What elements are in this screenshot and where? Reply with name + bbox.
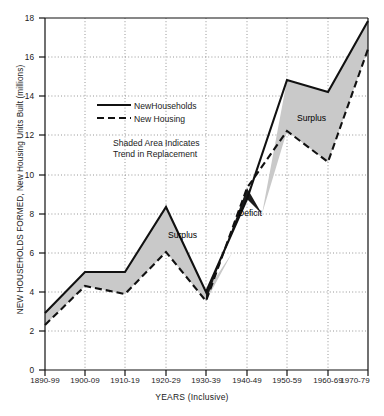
chart-legend: NewHouseholds New Housing <box>97 101 197 124</box>
surplus-band <box>45 21 368 325</box>
chart-container: NEW HOUSEHOLDS FORMED, New Housing Units… <box>0 0 384 416</box>
x-axis-ticks <box>45 370 368 376</box>
shaded-area-note: Shaded Area Indicates Trend in Replaceme… <box>113 138 199 159</box>
legend-label-new-housing: New Housing <box>134 114 185 124</box>
series-line-new-households <box>45 21 368 313</box>
axis-lines <box>45 18 368 370</box>
shaded-area-note-line2: Trend in Replacement <box>113 149 198 159</box>
region-label-surplus-1960s: Surplus <box>297 113 326 123</box>
plot-area: NewHouseholds New Housing Shaded Area In… <box>0 0 384 416</box>
grid-lines <box>45 18 368 370</box>
region-label-surplus-1920s: Surplus <box>168 230 197 240</box>
surplus-area-left <box>45 207 232 325</box>
region-label-deficit-1940s: Deficit <box>238 208 262 218</box>
y-axis-ticks <box>39 18 45 370</box>
legend-label-new-households: NewHouseholds <box>134 101 197 111</box>
shaded-area-note-line1: Shaded Area Indicates <box>113 138 199 148</box>
